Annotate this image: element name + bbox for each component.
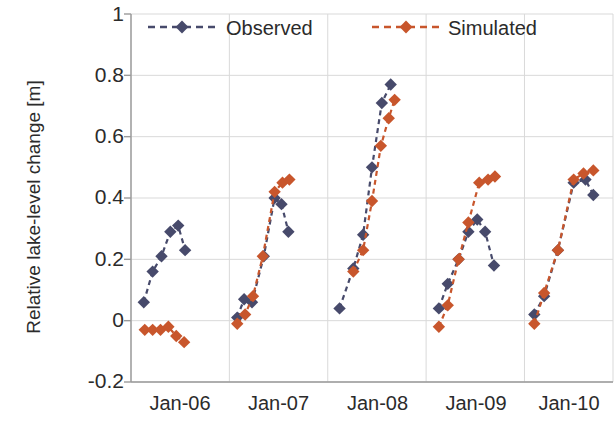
- data-point-marker: [433, 321, 445, 333]
- data-point-marker: [366, 195, 378, 207]
- data-point-marker: [155, 250, 167, 262]
- legend-marker-observed: [176, 21, 189, 34]
- data-point-marker: [146, 265, 158, 277]
- x-tick-label: Jan-10: [525, 392, 613, 415]
- x-tick-label: Jan-07: [229, 392, 328, 415]
- legend-marker-simulated: [400, 21, 413, 34]
- series-line-segment: [144, 226, 185, 303]
- data-point-marker: [587, 189, 599, 201]
- data-point-marker: [479, 226, 491, 238]
- series-simulated: [139, 94, 600, 349]
- data-point-marker: [587, 164, 599, 176]
- data-point-marker: [333, 302, 345, 314]
- x-tick-label: Jan-06: [131, 392, 229, 415]
- data-point-marker: [282, 226, 294, 238]
- x-tick-label: Jan-09: [427, 392, 525, 415]
- data-point-marker: [357, 229, 369, 241]
- chart-container: Relative lake-level change [m] 1 0.8 0.6…: [0, 0, 614, 428]
- data-series-layer: [138, 78, 600, 348]
- data-point-marker: [488, 259, 500, 271]
- x-tick-label: Jan-08: [328, 392, 427, 415]
- legend-label-simulated: Simulated: [448, 17, 537, 40]
- data-point-marker: [384, 78, 396, 90]
- data-point-marker: [376, 97, 388, 109]
- legend-label-observed: Observed: [226, 17, 313, 40]
- data-point-marker: [257, 250, 269, 262]
- data-point-marker: [383, 112, 395, 124]
- data-point-marker: [528, 318, 540, 330]
- data-point-marker: [388, 94, 400, 106]
- data-point-marker: [138, 296, 150, 308]
- data-point-marker: [552, 244, 564, 256]
- plot-area: [0, 0, 614, 428]
- data-point-marker: [452, 253, 464, 265]
- data-point-marker: [179, 244, 191, 256]
